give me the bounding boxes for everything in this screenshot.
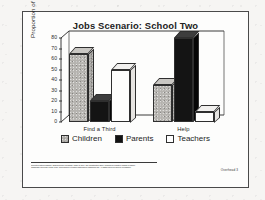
y-axis-tick-label: 0 (54, 119, 57, 124)
y-axis-tick-label: 70 (51, 46, 57, 51)
bar-teachers-help (195, 112, 214, 123)
y-axis-tick-mark (59, 111, 62, 112)
legend-swatch-parents (115, 135, 123, 143)
bar-front-face (69, 54, 88, 122)
y-axis-tick-mark (59, 80, 62, 81)
bar-front-face (111, 70, 130, 123)
footer-rule (31, 162, 157, 163)
bar-parents-help (174, 38, 193, 122)
footer-citation: Reprinted with permission. Original sour… (31, 162, 161, 169)
legend-swatch-teachers (166, 135, 174, 143)
bar-front-face (195, 112, 214, 123)
y-axis-tick-label: 10 (51, 109, 57, 114)
y-axis-label: Proportion of Subjects (29, 0, 36, 38)
y-axis-tick-label: 60 (51, 56, 57, 61)
y-axis-tick-label: 40 (51, 77, 57, 82)
y-axis-tick-mark (59, 59, 62, 60)
y-axis-tick-mark (59, 38, 62, 39)
bar-front-face (153, 85, 172, 122)
bar-teachers-find-a-third (111, 70, 130, 123)
footer-citation-line: Cambridge University Press, 1989. Reprod… (31, 166, 161, 169)
slide-frame: Jobs Scenario: School Two Proportion of … (22, 11, 249, 188)
y-axis-tick-mark (59, 101, 62, 102)
category-label: Help (177, 126, 189, 132)
legend-label: Parents (126, 134, 154, 143)
plot-area: 01020304050607080 Find a ThirdHelp (61, 38, 224, 122)
legend-item-children: Children (61, 134, 102, 143)
overhead-label: Overhead 3 (221, 168, 238, 172)
y-axis-tick-label: 30 (51, 88, 57, 93)
chart-title: Jobs Scenario: School Two (23, 20, 248, 31)
legend-label: Teachers (177, 134, 209, 143)
legend-item-teachers: Teachers (166, 134, 209, 143)
category-label: Find a Third (83, 126, 115, 132)
chart-legend: ChildrenParentsTeachers (23, 134, 248, 143)
y-axis-tick-label: 50 (51, 67, 57, 72)
y-axis-tick-label: 20 (51, 98, 57, 103)
legend-swatch-children (61, 135, 69, 143)
legend-label: Children (72, 134, 102, 143)
bar-front-face (90, 101, 109, 122)
y-axis-tick-mark (59, 69, 62, 70)
y-axis-tick-mark (59, 90, 62, 91)
y-axis-tick-mark (59, 48, 62, 49)
bar-front-face (174, 38, 193, 122)
bar-side-face (130, 64, 136, 122)
bar-children-find-a-third (69, 54, 88, 122)
bar-parents-find-a-third (90, 101, 109, 122)
legend-item-parents: Parents (115, 134, 154, 143)
y-axis-tick-mark (59, 122, 62, 123)
y-axis-tick-label: 80 (51, 35, 57, 40)
bar-children-help (153, 85, 172, 122)
